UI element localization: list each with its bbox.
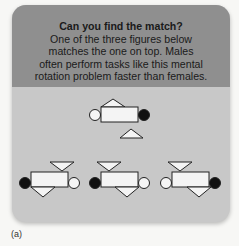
option-figure-1[interactable] [20,162,80,197]
black-circle-icon [139,110,150,121]
black-circle-icon [90,178,101,189]
option-figure-2[interactable] [90,162,150,197]
target-figure [90,99,150,138]
triangle-down-icon [115,187,139,197]
option-figure-3[interactable] [161,162,221,197]
white-circle-icon [161,178,172,189]
figures-canvas [0,0,239,246]
black-circle-icon [20,178,31,189]
rectangle-shape [31,172,68,187]
triangle-up-icon [120,129,143,138]
rectangle-shape [101,172,138,187]
triangle-down-icon [187,187,211,197]
triangle-down-icon [168,162,192,171]
white-circle-icon [139,178,150,189]
triangle-down-icon [97,162,121,171]
white-circle-icon [69,178,80,189]
triangle-up-icon [101,99,125,107]
rectangle-shape [172,172,209,187]
white-circle-icon [90,110,101,121]
figure-caption: (a) [11,229,22,239]
rectangle-shape [101,107,138,122]
triangle-down-icon [50,162,74,171]
triangle-down-icon [31,187,55,197]
